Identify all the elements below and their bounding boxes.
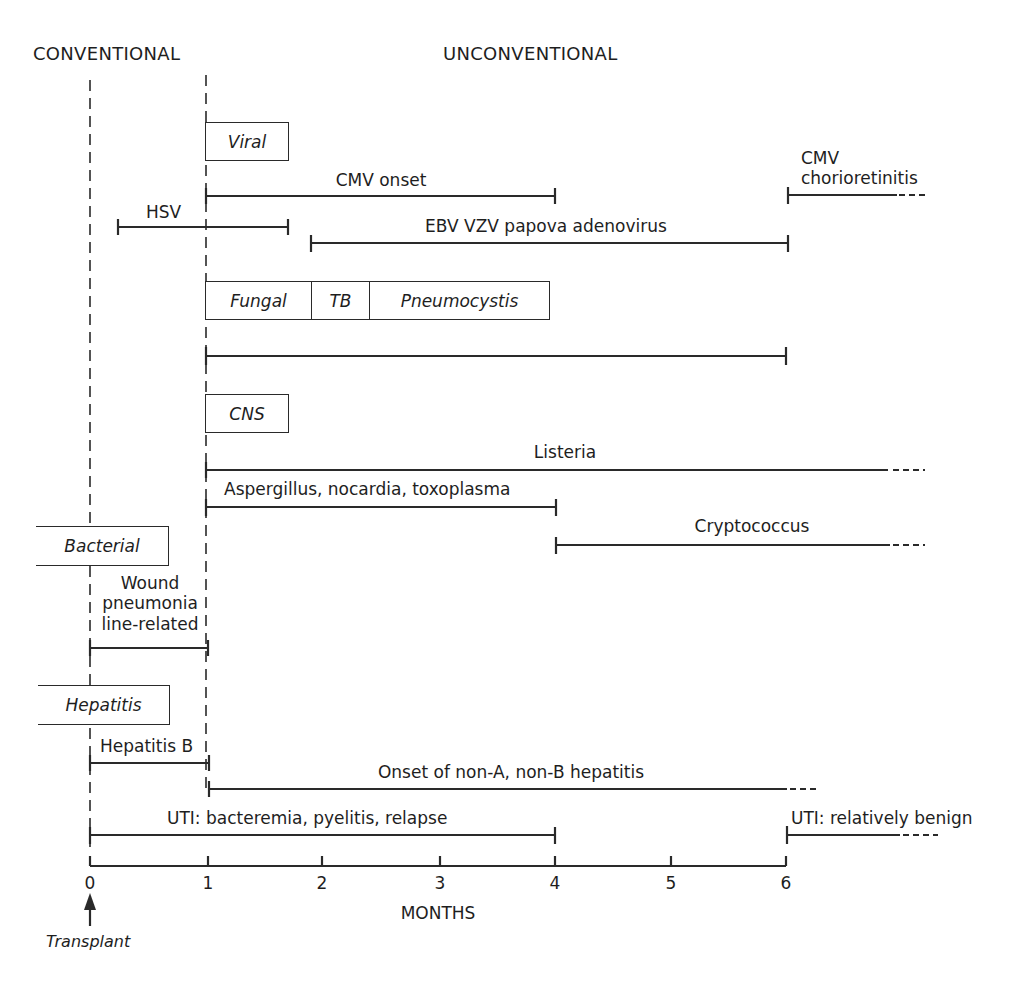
tick-label-0: 0 [85, 875, 96, 892]
bar-non-a-non-b [209, 781, 820, 797]
category-cell-pneumocystis: Pneumocystis [370, 282, 549, 319]
bar-hsv [118, 219, 288, 235]
bar-uti-early [90, 827, 555, 844]
bar-aspergillus [206, 499, 556, 516]
axis-label-months: MONTHS [401, 905, 476, 922]
category-box-hepatitis: Hepatitis [38, 685, 170, 725]
category-cell-fungal: Fungal [206, 282, 312, 319]
bar-cmv-chorioretinitis [788, 187, 926, 204]
tick-label-2: 2 [317, 875, 328, 892]
label-cryptococcus: Cryptococcus [695, 518, 810, 535]
bar-cryptococcus [556, 537, 925, 554]
category-box-viral: Viral [205, 122, 289, 161]
tick-label-5: 5 [666, 875, 677, 892]
label-ebv-vzv: EBV VZV papova adenovirus [425, 218, 667, 235]
bar-ebv-vzv [311, 235, 788, 252]
bar-fungal-tb-pneumocystis [206, 347, 786, 365]
tick-label-6: 6 [781, 875, 792, 892]
bar-uti-late [787, 826, 938, 844]
label-wound-pneumonia: Wound pneumonia line-related [102, 573, 199, 634]
label-non-a-non-b: Onset of non-A, non-B hepatitis [378, 764, 644, 781]
category-label-viral: Viral [228, 132, 266, 152]
category-box-cns: CNS [205, 394, 289, 433]
transplant-label: Transplant [46, 934, 130, 950]
category-label-hepatitis: Hepatitis [65, 695, 141, 715]
bar-listeria [206, 462, 925, 478]
tick-label-3: 3 [435, 875, 446, 892]
bar-hepatitis-b [90, 755, 209, 771]
category-box-fungal-tb-pneumocystis: Fungal TB Pneumocystis [205, 281, 550, 320]
bar-cmv-onset [206, 188, 555, 204]
category-label-fungal: Fungal [230, 291, 287, 311]
category-label-tb: TB [329, 291, 351, 311]
category-label-bacterial: Bacterial [64, 536, 139, 556]
category-label-pneumocystis: Pneumocystis [401, 291, 519, 311]
label-cmv-onset: CMV onset [336, 172, 427, 189]
label-hsv: HSV [146, 204, 181, 221]
category-box-bacterial: Bacterial [36, 526, 169, 566]
label-listeria: Listeria [534, 444, 596, 461]
tick-label-4: 4 [550, 875, 561, 892]
months-axis [90, 856, 786, 866]
label-uti-early: UTI: bacteremia, pyelitis, relapse [167, 810, 447, 827]
label-hepatitis-b: Hepatitis B [100, 738, 193, 755]
label-cmv-chorioretinitis: CMV chorioretinitis [801, 148, 918, 189]
category-cell-tb: TB [312, 282, 370, 319]
transplant-arrow-icon [84, 893, 96, 926]
label-uti-late: UTI: relatively benign [791, 810, 973, 827]
label-aspergillus: Aspergillus, nocardia, toxoplasma [224, 481, 510, 498]
bar-wound-pneumonia [90, 640, 208, 656]
tick-label-1: 1 [203, 875, 214, 892]
conventional-header: CONVENTIONAL [33, 45, 180, 63]
unconventional-header: UNCONVENTIONAL [443, 45, 617, 63]
category-label-cns: CNS [229, 404, 264, 424]
